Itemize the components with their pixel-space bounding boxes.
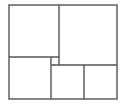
center-small-square [51,57,59,65]
bottom-right-square [84,65,117,99]
bottom-left-square [9,57,51,99]
regions-group [9,5,117,99]
tiling-diagram [0,0,123,106]
bottom-middle-square [51,65,84,99]
top-left-square [9,5,59,57]
top-right-square [59,5,117,65]
